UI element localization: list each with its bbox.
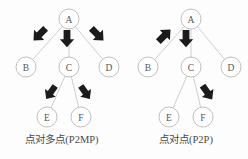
figure-root: ABCDEF 点对多点(P2MP) ABCDEF 点对点(P2P) [0,0,248,159]
node-e: E [159,107,179,127]
node-label-c: C [188,63,194,73]
node-a: A [181,9,201,29]
node-label-e: E [166,113,172,123]
arrow-c-to-f [75,82,95,103]
node-c: C [59,57,79,77]
arrow-c-to-f [197,82,218,104]
arrow-a-to-d [86,23,108,45]
node-d: D [221,57,241,77]
node-label-f: F [78,113,83,123]
node-label-a: A [66,15,73,25]
edge-c-f [193,77,200,108]
node-b: B [138,57,158,77]
node-c: C [181,57,201,77]
tree-diagram-p2p: ABCDEF [124,0,248,132]
arrow-a-to-b [28,23,50,45]
panel-p2mp: ABCDEF 点对多点(P2MP) [0,0,124,159]
edge-a-b [33,26,63,59]
node-label-d: D [228,63,235,73]
panel-p2p: ABCDEF 点对点(P2P) [124,0,248,159]
node-f: F [71,107,91,127]
node-label-a: A [188,15,195,25]
node-label-f: F [200,113,205,123]
edge-a-d [197,27,224,60]
edge-c-f [71,77,78,108]
node-label-d: D [106,63,113,73]
caption-p2mp: 点对多点(P2MP) [0,133,124,146]
node-label-b: B [23,63,29,73]
node-label-e: E [44,113,50,123]
node-b: B [16,57,36,77]
node-d: D [99,57,119,77]
edge-c-e [173,76,187,108]
tree-diagram-p2mp: ABCDEF [0,0,124,132]
arrow-b-to-a [153,24,175,46]
node-label-b: B [145,63,151,73]
arrow-a-to-c [60,30,74,47]
caption-p2p: 点对点(P2P) [124,133,248,146]
node-f: F [193,107,213,127]
node-a: A [59,9,79,29]
node-label-c: C [66,63,72,73]
node-e: E [37,107,57,127]
